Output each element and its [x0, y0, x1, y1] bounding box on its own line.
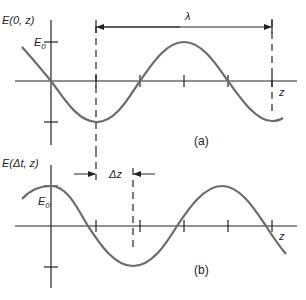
wave-diagram: E(0, z) E0 z λ (a) E(Δt, z) E0 z Δz (b): [0, 0, 306, 300]
panel-b: E(Δt, z) E0 z Δz (b): [2, 150, 297, 288]
delta-z-label: Δz: [108, 168, 122, 180]
y-axis-label-b: E(Δt, z): [2, 157, 39, 169]
panel-a: E(0, z) E0 z λ (a): [2, 10, 297, 150]
amplitude-label-a: E0: [34, 36, 46, 51]
wavelength-label: λ: [184, 10, 190, 22]
panel-label-b: (b): [194, 263, 209, 277]
x-axis-label-a: z: [278, 86, 285, 98]
panel-label-a: (a): [194, 134, 209, 148]
y-axis-label-a: E(0, z): [2, 14, 35, 26]
amplitude-label-b: E0: [38, 195, 50, 210]
x-axis-label-b: z: [278, 230, 285, 242]
wave-curve-a: [22, 42, 283, 122]
